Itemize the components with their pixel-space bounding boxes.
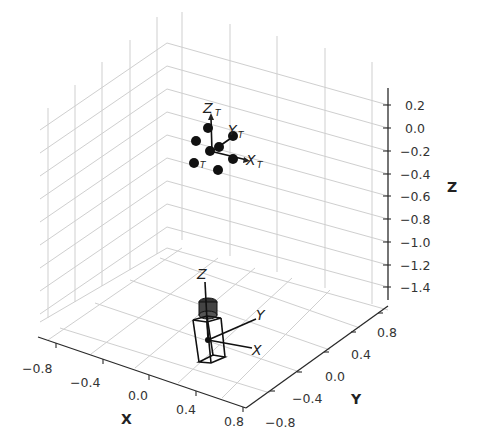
3d-plot: −0.8 −0.4 0.0 0.4 0.8 X −0.8 −0.4 0.0 0.… — [0, 0, 485, 448]
z-tick: −0.2 — [400, 144, 430, 159]
target-z-label: Z — [202, 100, 213, 116]
target-frame: Z T Y T X T T — [189, 100, 264, 175]
z-tick: −0.6 — [400, 189, 430, 204]
x-tick: 0.0 — [128, 388, 148, 403]
x-tick: 0.4 — [176, 402, 196, 417]
y-tick: −0.8 — [265, 415, 295, 430]
y-tick: 0.4 — [351, 347, 371, 362]
y-axis: −0.8 −0.4 0.0 0.4 0.8 Y — [246, 306, 397, 430]
camera-x-label: X — [251, 342, 262, 358]
x-tick: 0.8 — [224, 414, 244, 429]
y-axis-label: Y — [350, 391, 362, 407]
chart-container: −0.8 −0.4 0.0 0.4 0.8 X −0.8 −0.4 0.0 0.… — [0, 0, 485, 448]
svg-text:T: T — [238, 130, 245, 140]
target-point — [205, 146, 215, 156]
target-point — [228, 154, 238, 164]
z-tick: −0.4 — [400, 167, 430, 182]
x-axis-label: X — [121, 411, 132, 427]
y-tick: 0.8 — [377, 325, 397, 340]
target-y-label: Y — [228, 122, 238, 138]
right-wall-grid — [167, 12, 388, 304]
camera-y-label: Y — [256, 307, 266, 323]
y-tick: 0.0 — [325, 369, 345, 384]
z-tick: 0.2 — [405, 98, 425, 113]
target-x-label: X — [245, 152, 256, 168]
z-tick: −0.8 — [400, 212, 430, 227]
target-point — [214, 142, 224, 152]
y-tick: −0.4 — [292, 391, 322, 406]
svg-text:T: T — [215, 108, 222, 118]
target-point — [203, 123, 213, 133]
z-tick: −1.0 — [400, 235, 430, 250]
z-tick: 0.0 — [405, 121, 425, 136]
left-wall-grid — [40, 17, 167, 318]
z-axis: 0.2 0.0 −0.2 −0.4 −0.6 −0.8 −1.0 −1.2 −1… — [383, 88, 457, 300]
z-tick: −1.2 — [400, 258, 430, 273]
z-tick: −1.4 — [400, 280, 430, 295]
target-point — [213, 165, 223, 175]
x-tick: −0.4 — [70, 375, 100, 390]
z-axis-label: Z — [447, 179, 457, 195]
camera-z-label: Z — [196, 266, 207, 282]
target-point — [189, 158, 199, 168]
target-point — [191, 136, 201, 146]
x-tick: −0.8 — [22, 361, 52, 376]
